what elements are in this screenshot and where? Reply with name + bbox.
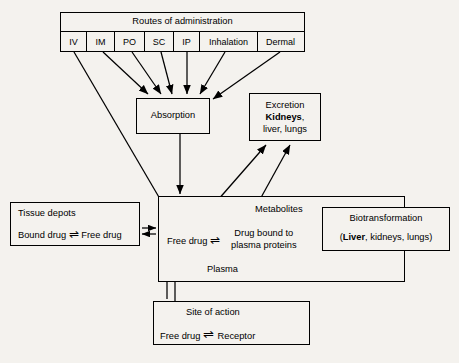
plasma-compartment-label: Plasma (207, 264, 238, 274)
site-receptor: Receptor (218, 331, 256, 341)
plasma-bound-line2: plasma proteins (231, 240, 297, 250)
excretion-box: Excretion Kidneys, liver, lungs (249, 93, 321, 141)
route-cell-ip[interactable]: IP (174, 32, 200, 51)
metabolites-label: Metabolites (255, 204, 303, 214)
biotransformation-organs: (Liver, kidneys, lungs) (323, 232, 449, 242)
biotransformation-organ-primary: Liver (343, 232, 365, 242)
site-of-action-equilibrium: Free drug ⇌ Receptor (160, 327, 255, 342)
tissue-depots-equilibrium: Bound drug ⇌ Free drug (18, 227, 122, 241)
routes-header-label: Routes of administration (132, 16, 232, 28)
tissue-equilibrium-icon: ⇌ (69, 227, 79, 241)
route-label-po: PO (123, 37, 136, 47)
biotransformation-organs-rest: , kidneys, lungs) (365, 232, 432, 242)
plasma-bound-line1: Drug bound to (234, 228, 293, 238)
site-equilibrium-icon: ⇌ (203, 327, 215, 342)
excretion-organ-primary: Kidneys (266, 112, 302, 122)
plasma-free-drug-label: Free drug ⇌ (167, 233, 220, 247)
tissue-depots-title: Tissue depots (18, 208, 76, 218)
route-cell-im[interactable]: IM (87, 32, 115, 51)
wire-metabolites-to-excretion (258, 145, 290, 203)
tissue-depots-box: Tissue depots Bound drug ⇌ Free drug (10, 202, 140, 246)
routes-header-box: Routes of administration (60, 12, 305, 32)
diagram-canvas: Routes of administration IV IM PO SC IP … (0, 0, 459, 363)
route-cell-sc[interactable]: SC (145, 32, 174, 51)
route-label-sc: SC (153, 37, 166, 47)
route-label-inhalation: Inhalation (209, 37, 248, 47)
wire-im-to-absorption (103, 52, 148, 94)
routes-cells-row: IV IM PO SC IP Inhalation Dermal (60, 32, 305, 52)
biotransformation-box: Biotransformation (Liver, kidneys, lungs… (322, 207, 450, 251)
excretion-line1: Excretion (266, 100, 305, 110)
site-of-action-title: Site of action (186, 307, 240, 317)
plasma-equilibrium-icon: ⇌ (210, 233, 220, 247)
plasma-bound-drug-label: Drug bound to plasma proteins (231, 228, 297, 251)
wire-sc-to-absorption (161, 52, 172, 94)
route-cell-inhalation[interactable]: Inhalation (200, 32, 258, 51)
route-cell-iv[interactable]: IV (61, 32, 87, 51)
excretion-label: Excretion Kidneys, liver, lungs (263, 99, 307, 135)
excretion-line2-rest: , (302, 112, 305, 122)
route-label-iv: IV (69, 37, 78, 47)
absorption-box: Absorption (136, 98, 210, 134)
route-cell-po[interactable]: PO (115, 32, 145, 51)
tissue-free-drug: Free drug (81, 230, 121, 240)
excretion-line3: liver, lungs (263, 124, 307, 134)
biotransformation-title: Biotransformation (323, 213, 449, 223)
plasma-free-drug-text: Free drug (167, 236, 207, 246)
route-cell-dermal[interactable]: Dermal (258, 32, 303, 51)
absorption-label: Absorption (151, 110, 195, 122)
wire-inhalation-to-absorption (200, 52, 225, 94)
route-label-im: IM (96, 37, 106, 47)
site-of-action-box: Site of action Free drug ⇌ Receptor (153, 301, 310, 345)
tissue-bound-drug: Bound drug (18, 230, 66, 240)
wire-po-to-absorption (132, 52, 161, 94)
route-label-dermal: Dermal (266, 37, 295, 47)
route-label-ip: IP (182, 37, 191, 47)
wire-dermal-to-absorption (213, 52, 280, 99)
site-free-drug: Free drug (160, 331, 200, 341)
